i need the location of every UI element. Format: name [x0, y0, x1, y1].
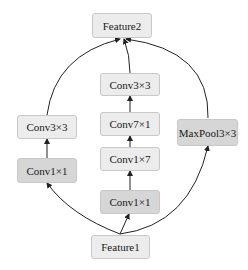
node-label: Conv7×1 — [109, 118, 150, 130]
edge-feature1-conv1x1-mid — [120, 214, 129, 234]
node-conv3x3-left: Conv3×3 — [17, 115, 77, 139]
node-label: Conv1×1 — [109, 196, 150, 208]
node-conv1x1-mid: Conv1×1 — [100, 190, 160, 214]
node-label: Feature2 — [103, 20, 141, 32]
node-label: Conv3×3 — [26, 121, 67, 133]
node-conv1x1-left: Conv1×1 — [17, 158, 77, 183]
node-conv3x3-mid: Conv3×3 — [100, 73, 160, 96]
edge-conv3x3-mid-feature2 — [124, 39, 130, 73]
node-label: Conv1×1 — [26, 165, 67, 177]
node-feature1: Feature1 — [91, 235, 150, 259]
node-maxpool3x3: MaxPool3×3 — [177, 119, 238, 146]
node-feature2: Feature2 — [92, 13, 152, 38]
node-label: MaxPool3×3 — [179, 127, 237, 139]
node-label: Conv1×7 — [109, 153, 150, 165]
node-label: Conv3×3 — [109, 79, 150, 91]
node-conv1x7-mid: Conv1×7 — [100, 147, 160, 171]
node-conv7x1-mid: Conv7×1 — [100, 112, 160, 136]
node-label: Feature1 — [101, 241, 139, 253]
